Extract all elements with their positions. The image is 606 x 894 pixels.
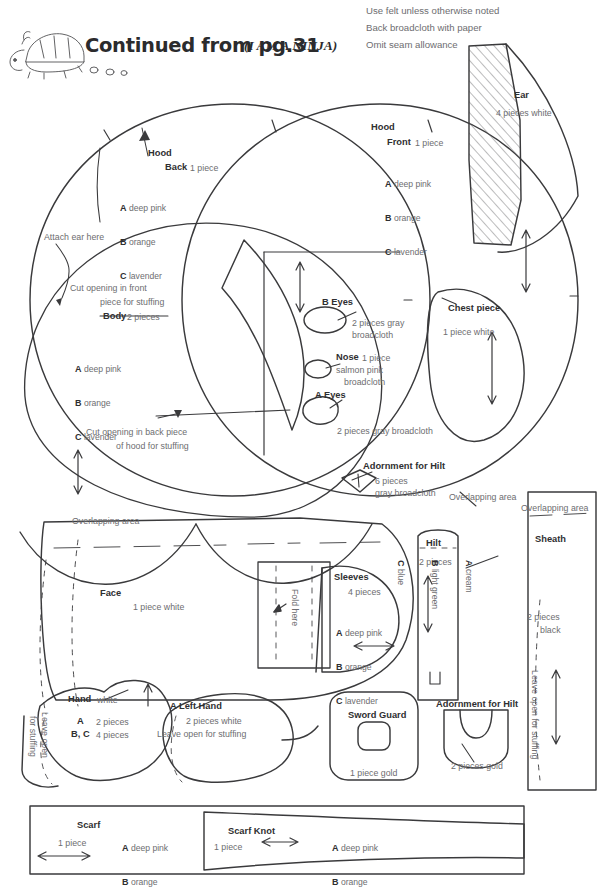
scarf-color-b-key: B — [122, 877, 129, 887]
body-color-a-val: deep pink — [84, 364, 121, 374]
overlapping-area-2: Overlapping area — [521, 503, 588, 513]
face-overlap-dashes — [54, 542, 380, 548]
hood-back-color-c-key: C — [120, 271, 127, 281]
adornment-hilt-bottom-shape — [444, 710, 508, 768]
scarf-color-a-key: A — [122, 843, 129, 853]
a-eyes-qty: 2 pieces gray broadcloth — [337, 426, 433, 436]
body-label: Body — [103, 311, 126, 322]
hilt-color-c-key: C — [396, 560, 406, 567]
sheath-overlap-dash — [530, 513, 594, 516]
cut-front-note-2: piece for stuffing — [100, 297, 164, 307]
hood-back-color-a-key: A — [120, 203, 127, 213]
scarf-knot-qty: 1 piece — [214, 842, 242, 852]
hood-front-color-c-key: C — [385, 247, 392, 257]
hood-back-color-b-key: B — [120, 237, 127, 247]
hood-back-color-c-val: lavender — [129, 271, 162, 281]
hood-front-color-b-key: B — [385, 213, 392, 223]
scarf-qty: 1 piece — [58, 838, 86, 848]
adornment-bottom-label: Adornment for Hilt — [436, 699, 518, 710]
hood-back-color-a-val: deep pink — [129, 203, 166, 213]
hood-front-color-b-val: orange — [394, 213, 421, 223]
sleeve-fold-arrowhead — [274, 605, 281, 612]
sheath-label: Sheath — [535, 534, 566, 545]
sleeve-left-edge — [316, 568, 322, 672]
sheath-qty: 2 pieces — [527, 612, 560, 622]
cut-back-note-1: Cut opening in back piece — [86, 427, 187, 437]
page-subtitle: (I AM A NINJA) — [244, 38, 337, 54]
hood-back-label: Hood — [148, 148, 172, 159]
instruction-line-1: Use felt unless otherwise noted — [366, 5, 499, 16]
instruction-line-2: Back broadcloth with paper — [366, 22, 482, 33]
fold-here-note: Fold here — [290, 589, 300, 626]
hood-front-color-a-val: deep pink — [394, 179, 431, 189]
sleeves-label: Sleeves — [334, 572, 369, 583]
sleeves-color-a-key: A — [336, 628, 343, 638]
body-color-b-val: orange — [84, 398, 111, 408]
face-scallop-left — [20, 524, 196, 584]
hand-material: white — [97, 695, 118, 705]
hilt-color-c-val: blue — [396, 569, 406, 585]
instruction-line-3: Omit seam allowance — [366, 39, 458, 50]
sleeves-color-b-val: orange — [345, 662, 372, 672]
hand-qty-a-key: A — [77, 716, 84, 727]
adornment-top-qty: 6 pieces — [375, 476, 408, 486]
face-inner-dash2 — [72, 540, 78, 706]
ear-label: Ear — [514, 90, 529, 101]
scarf-knot-color-b-key: B — [332, 877, 339, 887]
adornment-top-label: Adornment for Hilt — [363, 461, 445, 472]
left-hand-note: Leave open for stuffing — [157, 729, 246, 739]
ear-qty: 4 pieces white — [496, 108, 552, 118]
hilt-color-a-key: A — [464, 560, 474, 567]
sheath-qty-2: black — [540, 625, 561, 635]
body-qty: 2 pieces — [127, 312, 160, 322]
hand-qty-bc-val: 4 pieces — [96, 730, 129, 740]
body-color-c-key: C — [75, 432, 82, 442]
hilt-label: Hilt — [426, 538, 441, 549]
left-hand-qty: 2 pieces white — [186, 716, 242, 726]
sword-guard-label: Sword Guard — [348, 710, 406, 721]
hand-qty-bc-key: B, C — [71, 729, 90, 740]
attach-ear-note: Attach ear here — [44, 232, 104, 242]
hood-back-qty: 1 piece — [190, 163, 218, 173]
nose-qty: 1 piece — [362, 353, 390, 363]
hood-gusset — [222, 240, 304, 430]
sleeves-color-c-key: C — [336, 696, 343, 706]
hand-leave-open-note-2: for stuffing — [28, 716, 38, 757]
hand-qty-a-val: 2 pieces — [96, 717, 129, 727]
nose-qty-3: broadcloth — [344, 377, 385, 387]
hilt-color-b-key: B — [430, 560, 440, 567]
hood-back-sub: Back — [165, 162, 187, 173]
hilt-notch — [430, 672, 440, 684]
scarf-knot-color-a-key: A — [332, 843, 339, 853]
scarf-label: Scarf — [77, 820, 100, 831]
chest-label: Chest piece — [448, 303, 500, 314]
cut-back-note-2: of hood for stuffing — [116, 441, 189, 451]
body-color-b-key: B — [75, 398, 82, 408]
sleeves-color-c-val: lavender — [345, 696, 378, 706]
nose-shape — [305, 360, 331, 378]
hood-back-color-b-val: orange — [129, 237, 156, 247]
b-eyes-label: B Eyes — [322, 297, 353, 308]
hood-front-color-a-key: A — [385, 179, 392, 189]
scarf-color-a-val: deep pink — [131, 843, 168, 853]
face-label: Face — [100, 588, 121, 599]
b-eyes-qty-2: broadcloth — [352, 330, 393, 340]
hilt-outline — [418, 530, 458, 700]
sword-guard-qty: 1 piece gold — [350, 768, 397, 778]
b-eyes-qty: 2 pieces gray — [352, 318, 404, 328]
a-eyes-label: A Eyes — [315, 390, 346, 401]
ear-outline — [469, 44, 521, 245]
hood-front-color-c-val: lavender — [394, 247, 427, 257]
left-hand-tail — [282, 726, 318, 740]
sheath-leave-open-note: Leave open for stuffing — [530, 670, 540, 759]
pattern-sheet-page: Continued from pg.31 (I AM A NINJA) Use … — [0, 0, 606, 894]
left-hand-label: A Left Hand — [170, 701, 222, 712]
adornment-hilt-bottom-notch — [460, 710, 492, 738]
face-qty: 1 piece white — [133, 602, 184, 612]
hand-label: Hand — [68, 694, 91, 705]
overlapping-area-3: Overlapping area — [72, 516, 139, 526]
nose-qty-2: salmon pink — [336, 365, 383, 375]
adornment-hilt-top-tick — [358, 474, 359, 487]
scarf-knot-color-b-val: orange — [341, 877, 368, 887]
left-hand-dash — [171, 716, 182, 782]
